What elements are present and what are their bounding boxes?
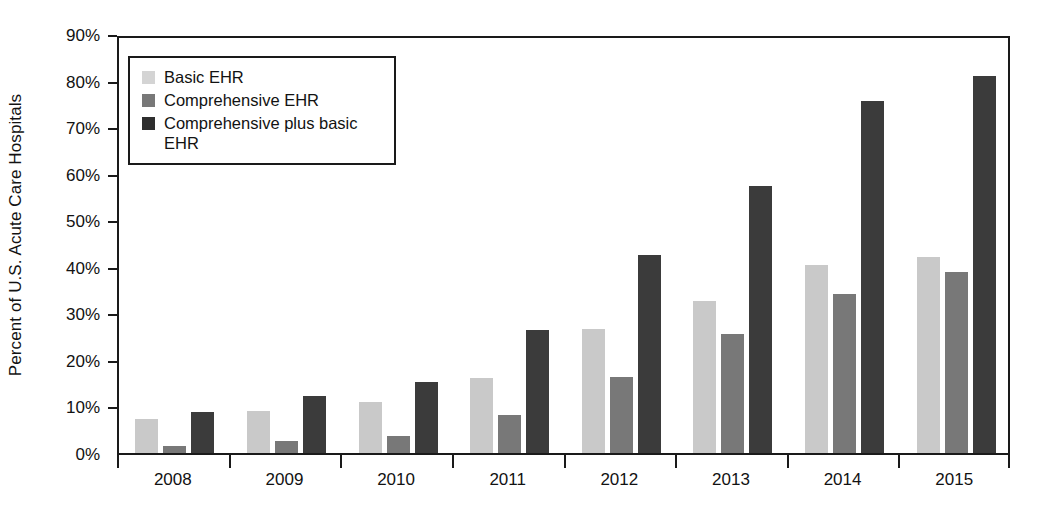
x-axis-tick-label-2013: 2013 xyxy=(712,470,750,490)
bar-2008-series-2 xyxy=(191,412,214,453)
x-axis-tick-label-2011: 2011 xyxy=(489,470,526,490)
bar-2015-series-2 xyxy=(973,76,996,453)
bar-group-2014 xyxy=(789,38,901,453)
x-axis-tick-mark xyxy=(564,455,566,468)
bar-2014-series-2 xyxy=(861,101,884,453)
y-axis-tick-label: 70% xyxy=(66,119,100,139)
y-axis-tick-mark xyxy=(108,175,117,177)
bar-2009-series-0 xyxy=(247,411,270,453)
legend-item-2: Comprehensive plus basic EHR xyxy=(142,113,384,153)
bar-2010-series-0 xyxy=(359,402,382,453)
legend-label: Comprehensive plus basic EHR xyxy=(164,113,384,153)
bar-group-2013 xyxy=(677,38,789,453)
y-axis-tick-label: 20% xyxy=(66,352,100,372)
bar-2013-series-1 xyxy=(721,334,744,453)
bar-2011-series-0 xyxy=(470,378,493,453)
x-axis-tick-label-2014: 2014 xyxy=(824,470,862,490)
y-axis-tick-labels: 0%10%20%30%40%50%60%70%80%90% xyxy=(34,36,106,455)
x-axis-tick-label-2008: 2008 xyxy=(154,470,192,490)
bar-2010-series-1 xyxy=(387,436,410,453)
x-axis-tick-mark xyxy=(787,455,789,468)
bar-2011-series-2 xyxy=(526,330,549,453)
bar-2013-series-2 xyxy=(749,186,772,453)
bar-group-2011 xyxy=(454,38,566,453)
bar-chart-figure: Percent of U.S. Acute Care Hospitals 0%1… xyxy=(0,0,1037,519)
x-axis-tick-label-2009: 2009 xyxy=(266,470,304,490)
x-axis-tick-labels: 20082009201020112012201320142015 xyxy=(117,470,1010,496)
legend-item-0: Basic EHR xyxy=(142,67,384,87)
legend-swatch-icon xyxy=(142,94,155,107)
bar-2015-series-1 xyxy=(945,272,968,453)
x-axis-tick-mark xyxy=(340,455,342,468)
y-axis-tick-mark xyxy=(108,128,117,130)
y-axis-tick-mark xyxy=(108,314,117,316)
bar-2014-series-1 xyxy=(833,294,856,453)
y-axis-tick-label: 30% xyxy=(66,305,100,325)
legend-label: Basic EHR xyxy=(164,67,244,87)
y-axis-tick-mark xyxy=(108,35,117,37)
bar-2008-series-1 xyxy=(163,446,186,453)
y-axis-title-text: Percent of U.S. Acute Care Hospitals xyxy=(6,94,26,376)
x-axis-tick-mark xyxy=(675,455,677,468)
bar-2009-series-1 xyxy=(275,441,298,453)
bar-2013-series-0 xyxy=(693,301,716,453)
legend-label: Comprehensive EHR xyxy=(164,90,319,110)
bar-2011-series-1 xyxy=(498,415,521,453)
bar-2015-series-0 xyxy=(917,257,940,453)
bar-group-2015 xyxy=(900,38,1012,453)
x-axis-tick-mark xyxy=(117,455,119,468)
y-axis-title: Percent of U.S. Acute Care Hospitals xyxy=(0,0,32,470)
bar-2012-series-1 xyxy=(610,377,633,453)
y-axis-tick-label: 40% xyxy=(66,259,100,279)
legend-swatch-icon xyxy=(142,117,155,130)
x-axis-tick-label-2012: 2012 xyxy=(600,470,638,490)
y-axis-tick-label: 0% xyxy=(75,445,100,465)
y-axis-tick-mark xyxy=(108,268,117,270)
bar-2012-series-2 xyxy=(638,255,661,453)
y-axis-tick-label: 90% xyxy=(66,26,100,46)
y-axis-tick-label: 50% xyxy=(66,212,100,232)
chart-legend: Basic EHRComprehensive EHRComprehensive … xyxy=(128,56,396,165)
x-axis-tick-label-2015: 2015 xyxy=(935,470,973,490)
y-axis-tick-mark xyxy=(108,82,117,84)
x-axis-tick-label-2010: 2010 xyxy=(377,470,415,490)
legend-item-1: Comprehensive EHR xyxy=(142,90,384,110)
y-axis-tick-mark xyxy=(108,407,117,409)
bar-2014-series-0 xyxy=(805,265,828,453)
x-axis-tick-mark xyxy=(229,455,231,468)
y-axis-tick-mark xyxy=(108,361,117,363)
y-axis-tick-label: 80% xyxy=(66,73,100,93)
bar-group-2012 xyxy=(566,38,678,453)
bar-2008-series-0 xyxy=(135,419,158,453)
y-axis-tick-mark xyxy=(108,221,117,223)
legend-swatch-icon xyxy=(142,71,155,84)
bar-2012-series-0 xyxy=(582,329,605,453)
x-axis-tick-mark xyxy=(452,455,454,468)
y-axis-tick-label: 10% xyxy=(66,398,100,418)
x-axis-tick-mark xyxy=(898,455,900,468)
bar-2010-series-2 xyxy=(415,382,438,453)
x-axis-tick-marks xyxy=(117,455,1010,469)
x-axis-tick-mark xyxy=(1008,455,1010,468)
bar-2009-series-2 xyxy=(303,396,326,453)
y-axis-tick-label: 60% xyxy=(66,166,100,186)
